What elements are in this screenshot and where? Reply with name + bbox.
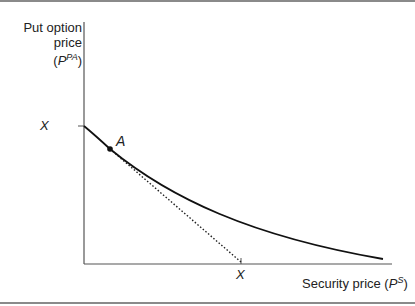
x-tick-label: X (236, 267, 245, 282)
y-tick-label: X (40, 118, 49, 133)
point-a-marker (107, 146, 113, 152)
put-price-curve (84, 126, 383, 259)
intrinsic-value-line (110, 149, 241, 262)
x-axis-label: Security price (PS) (302, 273, 408, 291)
point-a-label: A (116, 134, 125, 149)
y-axis-label: Put option price (PPA) (22, 20, 82, 68)
